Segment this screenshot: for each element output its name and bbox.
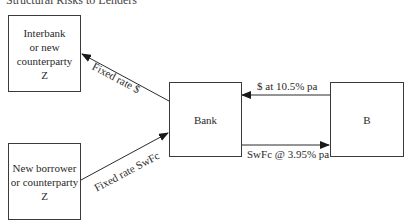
node-borrower-label: New borrower or counterparty Z [11,161,79,203]
node-new-borrower: New borrower or counterparty Z [8,143,81,220]
node-interbank: Interbank or new counterparty Z [8,15,81,92]
node-bank: Bank [169,82,242,157]
edge-label-swfc-rate: SwFc @ 3.95% pa [247,148,329,160]
edge-label-usd-rate: $ at 10.5% pa [257,80,317,92]
node-interbank-label: Interbank or new counterparty Z [17,26,73,82]
node-b: B [330,82,404,157]
node-b-label: B [363,113,370,127]
node-bank-label: Bank [194,113,217,127]
